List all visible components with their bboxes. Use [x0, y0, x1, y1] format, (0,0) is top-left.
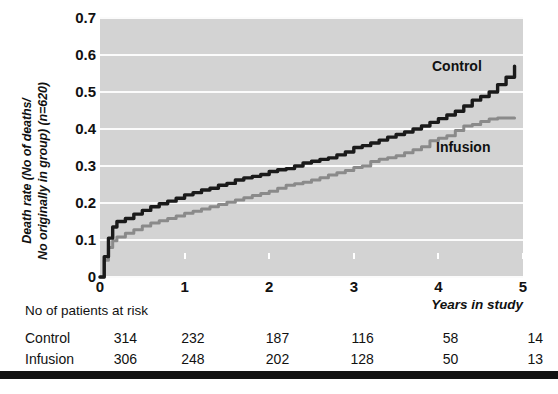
y-axis-title-line1: Death rate (No of deaths/ [19, 37, 35, 305]
risk-table-cell: 306 [97, 350, 137, 368]
risk-table-cell: 58 [418, 329, 458, 347]
x-axis-tick-label: 5 [508, 279, 538, 295]
x-axis-title: Years in study [431, 297, 523, 312]
risk-table-cell: 50 [418, 350, 458, 368]
risk-row-label: Infusion [25, 350, 74, 368]
x-axis-tick-label: 0 [85, 279, 115, 295]
series-label-infusion: Infusion [436, 139, 490, 155]
x-axis-tick-mark [184, 253, 186, 259]
y-axis-tick-label: 0.3 [56, 158, 96, 173]
risk-table-cell: 116 [334, 329, 374, 347]
figure-kaplan-meier-death-rate: Death rate (No of deaths/ No originally … [0, 0, 558, 394]
risk-table-cell: 202 [249, 350, 289, 368]
risk-table-cell: 187 [249, 329, 289, 347]
risk-row-label: Control [25, 329, 70, 347]
y-axis-tick-label: 0.4 [56, 121, 96, 136]
bottom-rule [0, 371, 558, 379]
risk-table-cell: 314 [97, 329, 137, 347]
y-axis-tick-label: 0.2 [56, 195, 96, 210]
x-axis-tick-label: 4 [423, 279, 453, 295]
x-axis-tick-mark [522, 253, 524, 259]
y-axis-tick-label: 0.7 [56, 10, 96, 25]
x-axis-tick-mark [437, 253, 439, 259]
y-axis-tick-label: 0.1 [56, 232, 96, 247]
risk-table-cell: 14 [503, 329, 543, 347]
x-axis-tick-label: 1 [170, 279, 200, 295]
x-axis-tick-mark [268, 253, 270, 259]
x-axis-tick-label: 3 [339, 279, 369, 295]
risk-table-cell: 232 [165, 329, 205, 347]
risk-table-cell: 128 [334, 350, 374, 368]
x-axis-tick-mark [353, 253, 355, 259]
series-label-control: Control [432, 58, 482, 74]
y-axis-tick-label: 0.6 [56, 47, 96, 62]
y-axis-tick-label: 0.5 [56, 84, 96, 99]
control-curve [100, 66, 515, 277]
risk-table-cell: 13 [503, 350, 543, 368]
risk-table-cell: 248 [165, 350, 205, 368]
risk-table-row: Control3142321871165814 [0, 329, 558, 348]
risk-table-row: Infusion3062482021285013 [0, 350, 558, 369]
y-axis-title-line2: No originally in group) (n=620) [35, 37, 51, 305]
risk-table-title: No of patients at risk [25, 303, 148, 318]
x-axis-tick-label: 2 [254, 279, 284, 295]
